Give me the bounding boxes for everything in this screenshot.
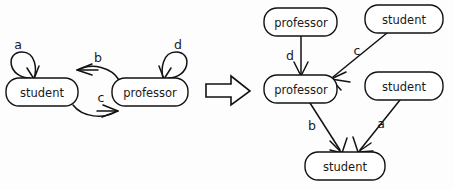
edge-label-a: a xyxy=(14,37,22,52)
edge-b-arc[interactable]: b xyxy=(77,50,119,81)
edge-d-self-loop[interactable]: d xyxy=(159,37,187,80)
edge-d-arrowhead xyxy=(159,66,171,79)
edge-r-d[interactable]: d xyxy=(286,36,308,76)
node-right-professor-mid[interactable]: professor xyxy=(264,75,337,103)
figure-canvas: a d b c xyxy=(0,0,453,190)
edge-r-b[interactable]: b xyxy=(308,103,347,153)
edge-label-r-c: c xyxy=(354,43,361,58)
node-left-student-label: student xyxy=(20,86,64,100)
edge-r-a[interactable]: a xyxy=(353,100,400,152)
edge-label-c: c xyxy=(98,90,105,105)
edge-label-d: d xyxy=(174,37,182,52)
edge-d-path xyxy=(162,52,187,78)
node-right-student-top[interactable]: student xyxy=(365,5,443,33)
node-right-professor-mid-label: professor xyxy=(274,83,328,97)
node-left-professor-label: professor xyxy=(123,86,177,100)
block-right-arrow-icon xyxy=(206,76,250,105)
node-right-student-bottom[interactable]: student xyxy=(305,152,385,180)
node-right-student-bottom-label: student xyxy=(323,160,367,174)
node-right-professor-top[interactable]: professor xyxy=(264,8,337,36)
edge-label-r-d: d xyxy=(286,48,294,63)
node-right-student-mid[interactable]: student xyxy=(365,72,443,100)
node-left-student[interactable]: student xyxy=(6,78,78,106)
edge-label-r-b: b xyxy=(308,118,316,133)
diagram-svg: a d b c xyxy=(0,0,453,190)
node-right-student-top-label: student xyxy=(382,13,426,27)
right-graph-group: d c b a xyxy=(264,5,443,180)
edge-a-arrowhead xyxy=(27,66,39,79)
node-right-professor-top-label: professor xyxy=(274,16,328,30)
block-right-arrow-shape xyxy=(206,76,250,105)
edge-a-self-loop[interactable]: a xyxy=(11,37,39,80)
node-left-professor[interactable]: professor xyxy=(112,78,188,106)
edge-b-path xyxy=(78,66,119,80)
edge-label-b: b xyxy=(94,50,102,65)
edge-label-r-a: a xyxy=(377,116,385,131)
edge-c-arc[interactable]: c xyxy=(73,90,118,118)
node-right-student-mid-label: student xyxy=(382,80,426,94)
left-graph-group: a d b c xyxy=(6,37,188,118)
